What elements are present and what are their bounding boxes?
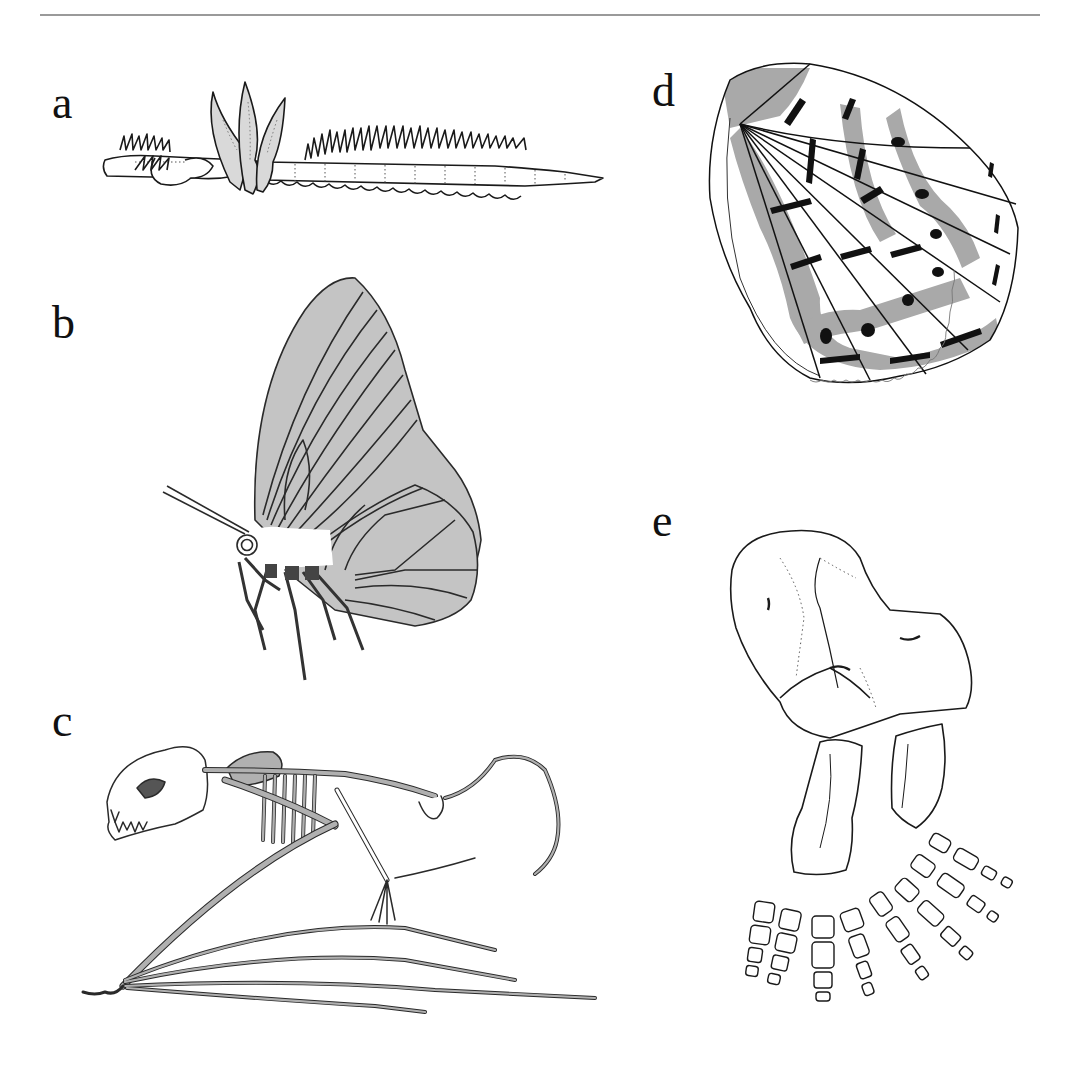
panel-label-d: d xyxy=(652,68,675,114)
panel-label-b: b xyxy=(52,300,75,346)
fossil-limb-drawing xyxy=(720,518,1040,1018)
top-rule xyxy=(40,14,1040,16)
panel-label-a: a xyxy=(52,80,72,126)
panel-c-bat-skeleton-illustration xyxy=(75,730,635,1010)
panel-b-butterfly-illustration xyxy=(155,270,495,690)
worm-drawing xyxy=(95,90,615,210)
panel-d-wing-pattern-illustration xyxy=(700,58,1040,408)
panel-a-worm-illustration xyxy=(95,90,615,210)
panel-label-e: e xyxy=(652,498,672,544)
panel-label-c: c xyxy=(52,698,72,744)
wing-pattern-drawing xyxy=(700,58,1040,408)
butterfly-drawing xyxy=(155,270,495,690)
bat-skeleton-drawing xyxy=(75,730,635,1010)
panel-e-fossil-limb-illustration xyxy=(720,518,1040,1018)
